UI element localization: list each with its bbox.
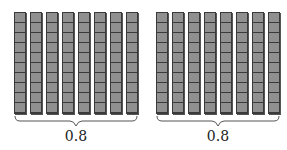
brace-right [156,116,280,128]
brace-left [14,116,138,128]
rod [268,12,280,114]
rod [220,12,232,114]
rod [94,12,106,114]
rod [62,12,74,114]
rod [14,12,26,114]
group-right-label: 0.8 [198,128,238,144]
rod [46,12,58,114]
rod [78,12,90,114]
rod [172,12,184,114]
rod [188,12,200,114]
rod [252,12,264,114]
rod [156,12,168,114]
rod [126,12,138,114]
rod [204,12,216,114]
rod [236,12,248,114]
rod [30,12,42,114]
group-left-label: 0.8 [56,128,96,144]
rod [110,12,122,114]
group-left [14,12,138,113]
group-right [156,12,280,113]
